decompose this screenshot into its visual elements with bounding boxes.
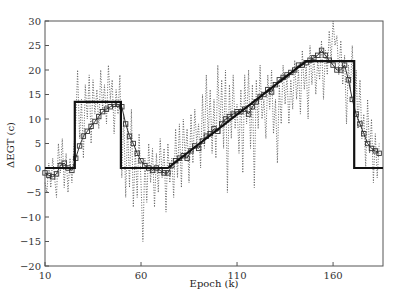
plot-frame <box>45 21 383 266</box>
x-tick-label: 160 <box>324 270 343 281</box>
series-true-shift <box>45 61 383 168</box>
y-tick-label: 30 <box>28 16 41 27</box>
chart: −20−15−10−5051015202530 1060110160 Epoch… <box>0 0 402 304</box>
y-tick-label: 20 <box>28 65 41 76</box>
y-tick-label: 5 <box>35 138 41 149</box>
y-tick-label: −5 <box>26 187 41 198</box>
series-estimate <box>43 48 382 179</box>
x-tick-label: 10 <box>39 270 52 281</box>
y-tick-label: −15 <box>20 236 41 247</box>
y-tick-label: 10 <box>28 114 41 125</box>
y-tick-label: 0 <box>35 163 41 174</box>
y-axis-label: ΔEGT (c) <box>5 122 16 168</box>
y-tick-label: 25 <box>28 40 41 51</box>
y-tick-label: 15 <box>28 89 41 100</box>
y-tick-label: −10 <box>20 212 41 223</box>
x-axis-label: Epoch (k) <box>190 278 239 289</box>
x-tick-label: 60 <box>135 270 148 281</box>
